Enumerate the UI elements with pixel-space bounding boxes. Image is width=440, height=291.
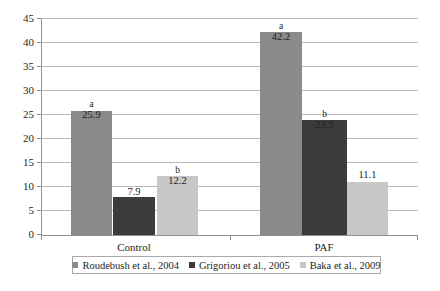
bar-paf-roudebush [260,32,302,235]
gridline-30 [41,90,418,91]
bar-paf-baka [347,182,388,235]
legend-label-grigoriou: Grigoriou et al., 2005 [199,260,290,271]
y-axis-label-25: 25 [4,109,34,120]
y-axis-label-0: 0 [4,229,34,240]
y-axis-label-5: 5 [4,205,34,216]
y-axis-labels: 45 40 35 30 25 20 15 10 5 0 [0,0,34,291]
y-axis-label-35: 35 [4,61,34,72]
x-axis-label-paf: PAF [260,241,388,253]
legend-item-roudebush[interactable]: Roudebush et al., 2004 [72,260,179,271]
plot-area: a 25.9 7.9 b 12.2 a 42.2 b 23.9 11.1 [41,18,418,235]
value-control-grigoriou: 7.9 [113,186,155,197]
annotation-paf-roudebush: a [260,21,302,31]
value-paf-grigoriou: 23.9 [302,119,347,130]
bar-control-roudebush [71,111,112,235]
legend-swatch-icon-grigoriou [189,262,195,268]
annotation-control-baka: b [157,165,198,175]
bar-chart: 45 40 35 30 25 20 15 10 5 0 [0,0,440,291]
x-axis-tick-center [230,236,231,240]
legend-swatch-icon-roudebush [72,262,78,268]
gridline-35 [41,66,418,67]
y-axis-label-40: 40 [4,37,34,48]
value-control-baka: 12.2 [157,175,198,186]
value-paf-roudebush: 42.2 [260,31,302,42]
bar-control-grigoriou [113,197,155,235]
y-axis-label-45: 45 [4,13,34,24]
bar-paf-grigoriou [302,120,347,235]
value-paf-baka: 11.1 [347,169,388,180]
legend-label-baka: Baka et al., 2009 [310,260,381,271]
legend-item-baka[interactable]: Baka et al., 2009 [300,260,381,271]
y-axis-label-10: 10 [4,181,34,192]
legend-item-grigoriou[interactable]: Grigoriou et al., 2005 [189,260,290,271]
y-axis-label-20: 20 [4,133,34,144]
y-axis-label-15: 15 [4,157,34,168]
value-control-roudebush: 25.9 [71,109,112,120]
legend-label-roudebush: Roudebush et al., 2004 [82,260,179,271]
legend-swatch-icon-baka [300,262,306,268]
x-axis-label-control: Control [71,241,197,253]
annotation-control-roudebush: a [71,99,112,109]
x-axis-tick-left [41,236,42,240]
gridline-40 [41,42,418,43]
gridline-45 [41,18,418,19]
annotation-paf-grigoriou: b [302,109,347,119]
chart-legend: Roudebush et al., 2004 Grigoriou et al.,… [72,256,381,274]
x-axis-tick-right [417,236,418,240]
y-axis-label-30: 30 [4,85,34,96]
